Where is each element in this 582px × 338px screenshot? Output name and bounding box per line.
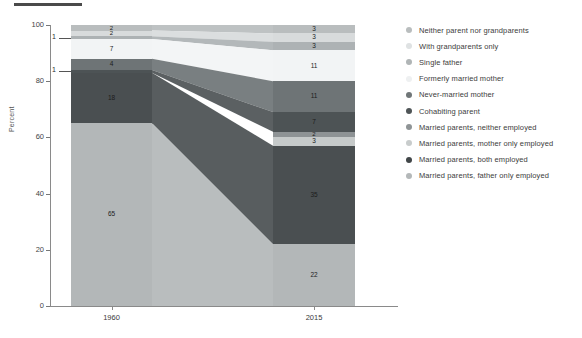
plot-area: Percent 100806040200 19602015 22741865 3…: [0, 0, 400, 338]
legend-item-label: Single father: [419, 58, 462, 67]
legend-item[interactable]: Married parents, father only employed: [406, 168, 582, 184]
y-tick-value: 80: [18, 76, 44, 85]
y-axis-tick-label: 40: [18, 189, 44, 198]
y-axis-title: Percent: [8, 106, 15, 132]
y-axis-tick-mark: [46, 250, 50, 251]
legend-item[interactable]: Married parents, both employed: [406, 152, 582, 168]
legend-swatch-icon: [406, 157, 412, 163]
callout-leader-line: [59, 71, 71, 72]
legend-item[interactable]: Married parents, neither employed: [406, 119, 582, 135]
legend-item[interactable]: Formerly married mother: [406, 71, 582, 87]
legend-item-label: Cohabiting parent: [419, 107, 480, 116]
stack-segment: [273, 137, 355, 145]
stack-segment: [273, 244, 355, 306]
legend-swatch-icon: [406, 59, 412, 65]
legend-item-label: Formerly married mother: [419, 74, 504, 83]
x-axis-line: [50, 306, 398, 307]
legend-item-label: Married parents, father only employed: [419, 171, 549, 180]
stack-segment: [71, 59, 152, 70]
callout-leader-line: [59, 38, 71, 39]
y-axis-tick-mark: [46, 25, 50, 26]
legend-item-label: Married parents, neither employed: [419, 123, 537, 132]
callout-value-label: 1: [52, 33, 56, 40]
legend-swatch-icon: [406, 43, 412, 49]
legend-swatch-icon: [406, 124, 412, 130]
stack-segment: [273, 112, 355, 132]
y-axis-tick-label: 20: [18, 245, 44, 254]
y-axis-tick-mark: [46, 81, 50, 82]
stack-segment: [273, 50, 355, 81]
y-axis-tick-label: 60: [18, 132, 44, 141]
legend-item-label: Married parents, both employed: [419, 155, 528, 164]
stack-segment: [273, 25, 355, 33]
legend-item-label: Neither parent nor grandparents: [419, 26, 529, 35]
x-axis-tick-mark: [314, 306, 315, 310]
legend-item-label: Never-married mother: [419, 90, 494, 99]
y-tick-value: 100: [18, 20, 44, 29]
y-axis-line: [50, 25, 51, 306]
legend-item-label: With grandparents only: [419, 42, 498, 51]
y-tick-value: 40: [18, 189, 44, 198]
stack-segment: [273, 146, 355, 244]
y-axis-tick-mark: [46, 137, 50, 138]
stack-segment: [273, 81, 355, 112]
x-axis-tick-mark: [112, 306, 113, 310]
legend-item[interactable]: Neither parent nor grandparents: [406, 22, 582, 38]
x-tick-label-2015: 2015: [306, 313, 323, 322]
legend-item[interactable]: Single father: [406, 54, 582, 70]
y-tick-value: 20: [18, 245, 44, 254]
legend-item[interactable]: With grandparents only: [406, 38, 582, 54]
stack-segment: [71, 73, 152, 124]
y-tick-value: 60: [18, 132, 44, 141]
legend-swatch-icon: [406, 173, 412, 179]
legend-swatch-icon: [406, 92, 412, 98]
legend-item[interactable]: Married parents, mother only employed: [406, 135, 582, 151]
callout-value-label: 1: [52, 66, 56, 73]
chart-canvas: Percent 100806040200 19602015 22741865 3…: [0, 0, 582, 338]
legend-swatch-icon: [406, 140, 412, 146]
legend-item-label: Married parents, mother only employed: [419, 139, 553, 148]
y-axis-tick-label: 0: [18, 301, 44, 310]
chart-legend: Neither parent nor grandparentsWith gran…: [406, 22, 582, 184]
legend-item[interactable]: Never-married mother: [406, 87, 582, 103]
y-axis-tick-label: 100: [18, 20, 44, 29]
x-tick-label-1960: 1960: [103, 313, 120, 322]
stack-segment: [71, 39, 152, 59]
legend-item[interactable]: Cohabiting parent: [406, 103, 582, 119]
y-axis-tick-mark: [46, 306, 50, 307]
stack-segment: [273, 33, 355, 41]
stack-segment: [71, 123, 152, 306]
legend-swatch-icon: [406, 108, 412, 114]
y-tick-value: 0: [18, 301, 44, 310]
y-axis-tick-label: 80: [18, 76, 44, 85]
legend-swatch-icon: [406, 76, 412, 82]
y-axis-tick-mark: [46, 194, 50, 195]
stack-segment: [273, 42, 355, 50]
legend-swatch-icon: [406, 27, 412, 33]
